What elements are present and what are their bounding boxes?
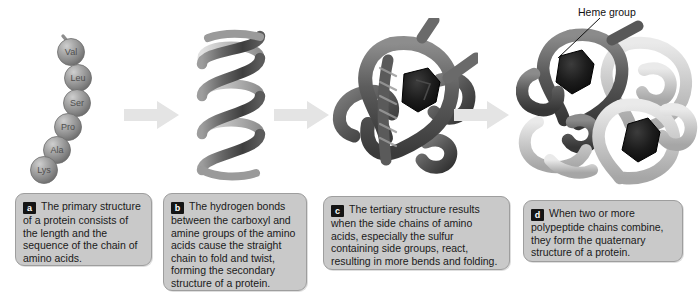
caption-badge-c: c bbox=[331, 205, 344, 217]
caption-box-d: dWhen two or more polypeptide chains com… bbox=[523, 200, 683, 262]
panel-secondary-structure-illustration bbox=[188, 28, 280, 183]
right-arrow-icon bbox=[274, 100, 330, 130]
caption-box-c: cThe tertiary structure results when the… bbox=[323, 196, 510, 270]
caption-text-a: The primary structure of a protein consi… bbox=[23, 200, 141, 264]
heme-group-shape bbox=[402, 68, 440, 112]
residue-label: Lys bbox=[37, 165, 51, 175]
panel-quaternary-structure-illustration bbox=[516, 14, 699, 186]
caption-text-c: The tertiary structure results when the … bbox=[331, 203, 497, 267]
caption-text-b: The hydrogen bonds between the carboxyl … bbox=[171, 200, 295, 289]
right-arrow-icon bbox=[454, 100, 510, 130]
residue-label: Pro bbox=[61, 122, 75, 132]
residue-label: Val bbox=[65, 47, 77, 57]
caption-text-d: When two or more polypeptide chains comb… bbox=[531, 207, 664, 258]
caption-badge-b: b bbox=[171, 202, 184, 214]
heme-group-shape bbox=[622, 118, 660, 162]
residue-label: Ala bbox=[50, 145, 63, 155]
residue-label: Leu bbox=[70, 73, 85, 83]
heme-leader-line bbox=[556, 16, 602, 60]
amino-acid-chain-graphic: Val Leu Ser Pro Ala Lys bbox=[22, 30, 122, 185]
quaternary-structure-graphic bbox=[516, 14, 699, 186]
heme-group-label: Heme group bbox=[578, 6, 636, 18]
panel-primary-structure-illustration: Val Leu Ser Pro Ala Lys bbox=[22, 30, 122, 185]
right-arrow-icon bbox=[124, 100, 180, 130]
caption-box-a: aThe primary structure of a protein cons… bbox=[15, 193, 152, 266]
caption-badge-d: d bbox=[531, 209, 544, 221]
protein-structure-figure: Val Leu Ser Pro Ala Lys bbox=[0, 0, 699, 308]
residue-label: Ser bbox=[70, 98, 84, 108]
caption-badge-a: a bbox=[23, 202, 36, 214]
caption-box-b: bThe hydrogen bonds between the carboxyl… bbox=[163, 193, 307, 291]
subunit-light-front-left bbox=[525, 122, 592, 173]
alpha-helix-graphic bbox=[188, 28, 280, 183]
